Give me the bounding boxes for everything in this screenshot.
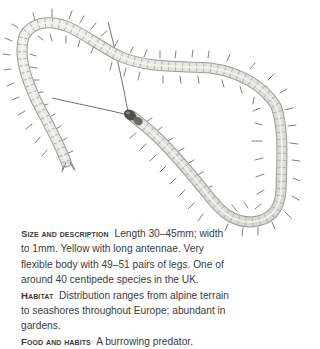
- antenna-icon: [52, 98, 124, 114]
- section-heading: Habitat: [21, 290, 53, 301]
- section-text: A burrowing predator.: [96, 336, 193, 347]
- section-heading: Size and description: [21, 228, 109, 239]
- species-description: Size and description Length 30–45mm; wid…: [21, 226, 231, 349]
- section-habitat: Habitat Distribution ranges from alpine …: [21, 288, 231, 334]
- section-food-habits: Food and habits A burrowing predator.: [21, 334, 231, 349]
- centipede-body-icon: [22, 23, 282, 222]
- section-size-description: Size and description Length 30–45mm; wid…: [21, 226, 231, 288]
- section-heading: Food and habits: [21, 336, 91, 347]
